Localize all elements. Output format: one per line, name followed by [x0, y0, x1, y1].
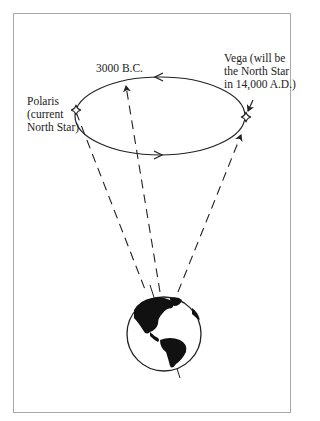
precession-ellipse [75, 77, 245, 155]
earth-globe [127, 285, 201, 378]
dashed-line-vega [178, 135, 241, 292]
3000-bc-label: 3000 B.C. [96, 62, 143, 75]
dashed-line-polaris [76, 112, 146, 292]
polaris-label: Polaris (current North Star) [27, 95, 79, 134]
vega-pointer-arrow [248, 100, 253, 111]
dashed-line-3000bc [126, 86, 160, 292]
vega-label: Vega (will be the North Star in 14,000 A… [224, 52, 296, 91]
vega-star-icon [241, 112, 251, 122]
